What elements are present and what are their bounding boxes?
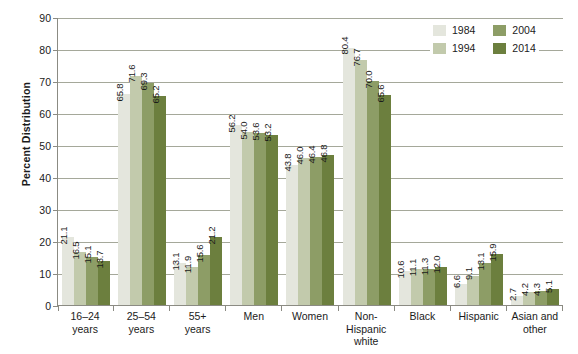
bar-value-label: 11.1	[407, 259, 417, 276]
bar[interactable]: 43.8	[286, 165, 298, 305]
bar[interactable]: 46.4	[310, 157, 322, 305]
bar[interactable]: 4.3	[535, 291, 547, 305]
bar-group: 80.476.770.065.6	[339, 18, 395, 305]
bar-value-label: 9.1	[463, 267, 473, 280]
legend-item[interactable]: 2004	[493, 24, 535, 36]
bar[interactable]: 2.7	[511, 296, 523, 305]
bar[interactable]: 65.6	[379, 95, 391, 305]
bar[interactable]: 53.2	[266, 135, 278, 305]
x-axis-tick-label: Black	[394, 310, 450, 348]
legend: 1984200419942014	[430, 22, 539, 56]
x-axis-tick-label-line: Asian and	[507, 310, 563, 323]
bar-value-label: 4.2	[519, 283, 529, 296]
bar-value-label: 13.7	[95, 250, 105, 268]
bar[interactable]: 65.8	[118, 94, 130, 305]
legend-label: 1984	[452, 24, 475, 36]
x-axis-tick-label-line: Women	[282, 310, 338, 323]
bar[interactable]: 9.1	[467, 276, 479, 305]
x-axis-tick-label: Hispanic	[451, 310, 507, 348]
bar-value-label: 10.6	[395, 260, 405, 278]
bar[interactable]: 13.7	[98, 261, 110, 305]
bar[interactable]: 6.6	[455, 284, 467, 305]
legend-item[interactable]: 1994	[433, 42, 475, 54]
bar-group: 21.116.515.113.7	[58, 18, 114, 305]
x-axis-tick-label: Women	[282, 310, 338, 348]
bar-group: 6.69.113.115.9	[451, 18, 507, 305]
bar[interactable]: 46.8	[322, 155, 334, 305]
bar-value-label: 76.7	[351, 49, 361, 67]
legend-label: 2004	[512, 24, 535, 36]
bar-value-label: 46.4	[307, 145, 317, 163]
bar-group: 10.611.111.312.0	[395, 18, 451, 305]
bar-value-label: 43.8	[283, 154, 293, 172]
bar-value-label: 46.8	[319, 144, 329, 162]
bar[interactable]: 69.3	[142, 83, 154, 305]
y-axis-tick-label: 40	[39, 172, 51, 184]
x-axis-tick-label-line: Men	[226, 310, 282, 323]
legend-item[interactable]: 1984	[433, 24, 475, 36]
x-axis-tick-label: Non-Hispanicwhite	[338, 310, 394, 348]
bars: 21.116.515.113.7	[58, 18, 114, 305]
bars: 43.846.046.446.8	[282, 18, 338, 305]
bar-value-label: 53.6	[251, 122, 261, 140]
bar[interactable]: 11.3	[423, 269, 435, 305]
legend-swatch	[493, 43, 506, 54]
bar-groups: 21.116.515.113.765.871.669.365.213.111.9…	[58, 18, 563, 305]
bar[interactable]: 54.0	[242, 132, 254, 305]
x-axis-tick-label-line: years	[113, 323, 169, 336]
y-axis-title: Percent Distribution	[20, 64, 32, 204]
bar[interactable]: 13.1	[479, 263, 491, 305]
x-axis-tick-label-line: other	[507, 323, 563, 336]
legend-swatch	[493, 25, 506, 36]
bar-value-label: 53.2	[263, 124, 273, 142]
bar-value-label: 21.1	[59, 226, 69, 244]
y-axis-tick-label: 50	[39, 140, 51, 152]
bar[interactable]: 56.2	[230, 125, 242, 305]
bar[interactable]: 5.1	[547, 289, 559, 305]
bar[interactable]: 12.0	[435, 267, 447, 305]
bar[interactable]: 53.6	[254, 133, 266, 305]
bar-value-label: 65.2	[151, 85, 161, 103]
bar[interactable]: 21.2	[210, 237, 222, 305]
bar-value-label: 5.1	[543, 280, 553, 293]
bar[interactable]: 80.4	[343, 48, 355, 305]
legend-item[interactable]: 2014	[493, 42, 535, 54]
bar-value-label: 80.4	[339, 37, 349, 55]
y-axis-tick-label: 90	[39, 12, 51, 24]
legend-label: 1994	[452, 42, 475, 54]
legend-swatch	[433, 43, 446, 54]
y-axis-tick-label: 0	[45, 300, 51, 312]
bar-value-label: 56.2	[227, 114, 237, 132]
x-axis-tick-label-line: Black	[394, 310, 450, 323]
bar[interactable]: 76.7	[355, 60, 367, 305]
bar[interactable]: 71.6	[130, 76, 142, 305]
x-axis-tick-label-line: years	[57, 323, 113, 336]
bar-value-label: 2.7	[507, 288, 517, 301]
bar[interactable]: 15.6	[198, 255, 210, 305]
y-axis-tick-label: 30	[39, 204, 51, 216]
y-axis-tick-label: 10	[39, 268, 51, 280]
bar[interactable]: 15.9	[491, 254, 503, 305]
bar-chart: Percent Distribution 0102030405060708090…	[0, 0, 578, 354]
bar-value-label: 15.6	[195, 244, 205, 262]
bar-value-label: 65.8	[115, 83, 125, 101]
bars: 2.74.24.35.1	[507, 18, 563, 305]
bar-value-label: 69.3	[139, 72, 149, 90]
bar-group: 65.871.669.365.2	[114, 18, 170, 305]
x-axis-tick-label-line: Hispanic	[451, 310, 507, 323]
bar-value-label: 11.3	[419, 258, 429, 275]
bar-value-label: 4.3	[531, 283, 541, 296]
bar[interactable]: 11.9	[186, 267, 198, 305]
bar-value-label: 12.0	[431, 256, 441, 274]
x-axis-tick-label-line: years	[169, 323, 225, 336]
x-axis-tick-label: Men	[226, 310, 282, 348]
bar-group: 13.111.915.621.2	[170, 18, 226, 305]
bar[interactable]: 70.0	[367, 81, 379, 305]
bar-value-label: 15.9	[487, 243, 497, 261]
x-axis-tick-label-line: 25–54	[113, 310, 169, 323]
bar-value-label: 11.9	[183, 256, 193, 273]
bar[interactable]: 46.0	[298, 158, 310, 305]
bar-value-label: 54.0	[239, 121, 249, 139]
bar[interactable]: 65.2	[154, 96, 166, 305]
bar-value-label: 70.0	[363, 70, 373, 88]
